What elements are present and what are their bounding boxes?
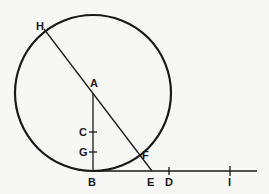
label-C: C [79,126,87,138]
label-D: D [165,176,173,188]
geometry-diagram: H A C G F B E D I [0,0,269,194]
label-G: G [79,146,88,158]
label-H: H [36,20,44,32]
label-I: I [228,176,231,188]
diagram-svg: H A C G F B E D I [0,0,269,194]
label-E: E [147,176,154,188]
label-A: A [90,77,98,89]
label-B: B [88,176,96,188]
secant-line-HE [44,29,152,171]
label-F: F [142,149,149,161]
